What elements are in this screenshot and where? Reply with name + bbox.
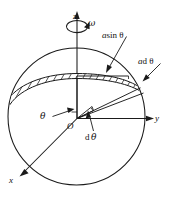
d-theta-leader-line	[90, 116, 94, 132]
a-sin-theta-function: sin θ	[107, 30, 124, 40]
omega-label: ω	[88, 19, 95, 28]
d-theta-differential-d: d	[85, 132, 90, 142]
theta-angle-label: θ	[40, 112, 45, 121]
x-axis-label: x	[9, 176, 13, 185]
a-sin-theta-leader-line	[109, 37, 127, 69]
y-axis-label-text: y	[155, 113, 159, 123]
x-axis-label-text: x	[9, 175, 13, 185]
origin-label: O	[67, 122, 74, 131]
origin-label-text: O	[67, 121, 74, 131]
d-theta-symbol: θ	[91, 132, 96, 142]
a-d-theta-label: ad θ	[138, 57, 154, 66]
y-axis-label: y	[155, 114, 159, 123]
y-axis-arrowhead	[146, 116, 154, 121]
z-axis-label: z	[73, 12, 77, 21]
theta-leader-line	[53, 111, 71, 117]
a-sin-theta-label: asin θ	[102, 31, 124, 40]
a-sin-theta-leader-arrowhead	[106, 64, 112, 73]
a-d-theta-differential: d θ	[143, 56, 154, 66]
figure-drawing	[0, 0, 173, 199]
figure-sphere-rotation: z ω y x O asin θ ad θ θ dθ	[0, 0, 173, 199]
d-theta-label: dθ	[85, 133, 96, 142]
x-axis-arrowhead	[20, 169, 29, 176]
